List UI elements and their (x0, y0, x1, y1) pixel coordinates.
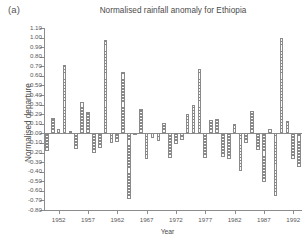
bar (80, 102, 84, 134)
bar (286, 121, 290, 133)
x-tick-label: 1967 (140, 216, 154, 223)
y-tick-label: 0.60 (30, 71, 42, 78)
x-tick-label: 1952 (52, 216, 66, 223)
y-tick-label: -0.20 (28, 148, 42, 155)
y-tick-label: -0.60 (28, 186, 42, 193)
x-tick-label: 1982 (228, 216, 242, 223)
y-tick-label: -0.10 (28, 138, 42, 145)
bar (133, 133, 137, 135)
bar (98, 133, 102, 147)
x-tick-label: 1987 (257, 216, 271, 223)
x-tick-mark (59, 210, 60, 214)
bar (51, 118, 55, 133)
y-axis-line (44, 28, 45, 210)
panel-label: (a) (8, 4, 20, 15)
bar (86, 112, 90, 133)
x-tick-label: 1957 (81, 216, 95, 223)
x-tick-label: 1977 (198, 216, 212, 223)
bar (198, 69, 202, 133)
y-tick-label: 0.50 (30, 81, 42, 88)
y-tick-label: 0.10 (30, 119, 42, 126)
x-tick-mark (293, 210, 294, 214)
y-tick-label: -0.80 (28, 206, 42, 213)
bar (256, 133, 260, 149)
bar (209, 120, 213, 133)
x-tick-mark (176, 210, 177, 214)
x-tick-label: 1972 (169, 216, 183, 223)
y-tick-label: 0.30 (30, 100, 42, 107)
y-tick-label: 0.70 (30, 62, 42, 69)
bar (162, 123, 166, 134)
y-tick-label: 0.20 (30, 110, 42, 117)
chart-title: Normalised rainfall anomaly for Ethiopia (42, 6, 304, 15)
bar (239, 133, 243, 170)
bar (280, 38, 284, 134)
bar (63, 65, 67, 133)
x-tick-label: 1992 (286, 216, 300, 223)
bar (115, 133, 119, 142)
y-tick-label: -0.40 (28, 167, 42, 174)
bar (291, 133, 295, 159)
bar (268, 129, 272, 134)
x-axis-label: Year (40, 228, 295, 235)
bar (233, 124, 237, 134)
plot-area: 1.101.000.900.800.700.600.500.400.300.20… (44, 28, 302, 210)
x-tick-mark (205, 210, 206, 214)
bar (145, 133, 149, 159)
bar (121, 72, 125, 133)
bar (168, 133, 172, 158)
bar (57, 129, 61, 134)
bar (192, 105, 196, 134)
bar (262, 133, 266, 182)
y-tick-label: 1.10 (30, 24, 42, 31)
bar (45, 133, 49, 150)
bar (151, 133, 155, 138)
bar (274, 133, 278, 195)
x-tick-mark (117, 210, 118, 214)
bar (104, 40, 108, 133)
bar (297, 133, 301, 167)
x-tick-mark (147, 210, 148, 214)
bar (92, 133, 96, 153)
y-tick-label: -0.30 (28, 158, 42, 165)
bar (139, 109, 143, 133)
chart-figure: (a) Normalised rainfall anomaly for Ethi… (0, 0, 307, 242)
bar (110, 133, 114, 143)
bar (69, 131, 73, 133)
bar (74, 133, 78, 148)
bar (203, 133, 207, 158)
y-tick-label: 0.90 (30, 43, 42, 50)
y-tick-label: 0.00 (30, 129, 42, 136)
x-tick-mark (235, 210, 236, 214)
x-tick-mark (88, 210, 89, 214)
y-tick-label: 0.80 (30, 52, 42, 59)
bar (180, 133, 184, 140)
y-tick-label: -0.70 (28, 196, 42, 203)
bar (174, 133, 178, 144)
bar (221, 133, 225, 157)
bar (250, 111, 254, 133)
x-tick-label: 1962 (110, 216, 124, 223)
bar (157, 133, 161, 141)
x-tick-mark (264, 210, 265, 214)
y-tick-label: 0.40 (30, 91, 42, 98)
bar (186, 114, 190, 133)
bar (215, 119, 219, 133)
y-tick-label: 1.00 (30, 33, 42, 40)
bar (244, 133, 248, 143)
bar (227, 133, 231, 159)
bar (127, 133, 131, 199)
y-tick-label: -0.50 (28, 177, 42, 184)
